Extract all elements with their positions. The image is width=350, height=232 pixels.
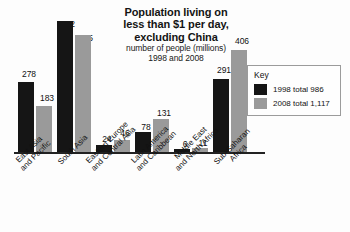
legend-label-1998: 1998 total 986: [273, 85, 324, 94]
legend-title: Key: [254, 70, 335, 80]
bar-value-label: 183: [36, 93, 58, 103]
bar-1998-sub-saharan: [213, 79, 229, 152]
bar-value-label: 278: [18, 69, 40, 79]
legend-swatch-2008-icon: [254, 98, 267, 109]
chart-screenshot: Population living on less than $1 per da…: [0, 0, 350, 232]
bar-1998-south-asia: [57, 21, 73, 152]
legend-swatch-1998-icon: [254, 84, 267, 95]
legend-key-box: Key 1998 total 986 2008 total 1,117: [247, 65, 341, 116]
bar-value-label: 406: [231, 36, 253, 46]
plot-area: 278 183 522 465 24 46 78 131 6 11 291 40…: [0, 0, 350, 232]
bar-value-label: 131: [153, 108, 175, 118]
legend-row-1998: 1998 total 986: [254, 84, 335, 95]
legend-label-2008: 2008 total 1,117: [273, 99, 330, 108]
legend-row-2008: 2008 total 1,117: [254, 98, 335, 109]
